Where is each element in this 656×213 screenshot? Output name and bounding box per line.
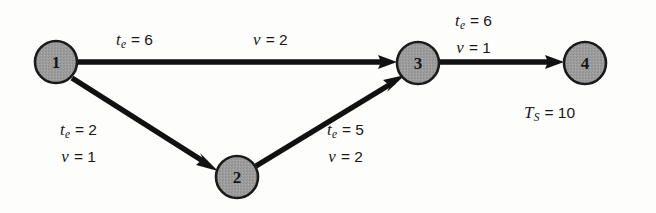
total-time-label: TS=10 <box>524 100 575 127</box>
edge-2-to-3-label: te=5 v=2 <box>327 117 364 170</box>
node-3-label: 3 <box>414 54 423 73</box>
node-1[interactable]: 1 <box>35 41 77 83</box>
equals-sign: = <box>70 121 88 138</box>
equals-sign: = <box>539 104 557 121</box>
te-value: 5 <box>355 121 364 138</box>
equals-sign: = <box>336 148 354 165</box>
ts-value: 10 <box>558 104 576 121</box>
equals-sign: = <box>261 31 279 48</box>
node-2[interactable]: 2 <box>216 156 258 198</box>
v-symbol: v <box>328 147 336 166</box>
node-4-label: 4 <box>581 54 590 73</box>
edge-1-to-3-v-label: v=2 <box>253 27 288 53</box>
edge-1-to-3 <box>77 55 397 69</box>
node-4[interactable]: 4 <box>564 42 606 84</box>
te-value: 6 <box>144 31 153 48</box>
edge-3-to-4-te-row: te=6 <box>455 8 492 35</box>
edge-2-to-3-line <box>256 82 394 166</box>
te-value: 2 <box>88 121 97 138</box>
v-value: 1 <box>87 148 96 165</box>
edge-2-to-3-te-row: te=5 <box>327 117 364 144</box>
node-2-label: 2 <box>233 168 242 187</box>
v-value: 1 <box>482 39 491 56</box>
v-symbol: v <box>61 147 69 166</box>
node-3[interactable]: 3 <box>397 42 439 84</box>
equals-sign: = <box>337 121 355 138</box>
edge-2-to-3-v-row: v=2 <box>327 144 364 170</box>
v-symbol: v <box>253 30 261 49</box>
te-value: 6 <box>483 12 492 29</box>
equals-sign: = <box>464 39 482 56</box>
v-value: 2 <box>354 148 363 165</box>
edge-1-to-2-label: te=2 v=1 <box>60 117 97 170</box>
edge-1-to-3-te-label: te=6 <box>116 27 153 54</box>
v-value: 2 <box>279 31 288 48</box>
equals-sign: = <box>126 31 144 48</box>
edge-1-to-2-te-row: te=2 <box>60 117 97 144</box>
equals-sign: = <box>465 12 483 29</box>
ts-symbol: T <box>524 103 534 122</box>
network-diagram: 1 2 3 4 te=6 v=2 te=2 v=1 <box>0 0 656 213</box>
equals-sign: = <box>69 148 87 165</box>
v-symbol: v <box>456 38 464 57</box>
node-1-label: 1 <box>52 53 61 72</box>
edge-3-to-4-label: te=6 v=1 <box>455 8 492 61</box>
edge-3-to-4-v-row: v=1 <box>455 35 492 61</box>
edge-1-to-2-v-row: v=1 <box>60 144 97 170</box>
